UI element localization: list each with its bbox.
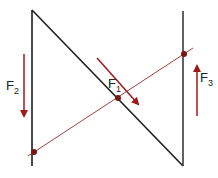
svg-text:F: F	[6, 78, 14, 93]
svg-text:3: 3	[208, 78, 213, 88]
f3-label: F 3	[200, 70, 213, 88]
right-joint-dot	[181, 51, 187, 57]
left-joint-dot	[31, 149, 37, 155]
line-of-action	[28, 48, 193, 156]
force-diagram: F 1 F 2 F 3	[0, 0, 218, 178]
f2-label: F 2	[6, 78, 19, 96]
svg-text:F: F	[200, 70, 208, 85]
svg-text:F: F	[108, 76, 116, 91]
center-joint-dot	[115, 95, 121, 101]
svg-text:2: 2	[14, 86, 19, 96]
svg-text:1: 1	[116, 84, 121, 94]
